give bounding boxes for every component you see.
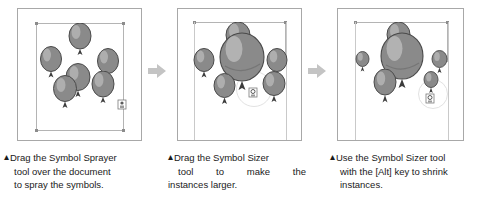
caption-step-1: ▴Drag the Symbol Sprayer tool over the d…	[4, 150, 159, 192]
selection-handle-top-left[interactable]	[35, 22, 38, 25]
figure-page: ▴Drag the Symbol Sprayer tool over the d…	[0, 0, 478, 205]
symbol-sizer-cursor-icon	[424, 91, 436, 105]
symbol-instance-balloon[interactable]	[89, 71, 117, 105]
symbol-instance-balloon[interactable]	[211, 73, 238, 106]
caption-line: tool to make the	[168, 165, 306, 179]
symbol-instance-balloon[interactable]	[66, 23, 94, 57]
selection-bounds-lower	[36, 119, 124, 131]
caption-step-2: ▴Drag the Symbol Sizer tool to make the …	[168, 150, 320, 192]
selection-handle-top-right[interactable]	[122, 22, 125, 25]
symbol-instance-balloon[interactable]	[371, 69, 399, 105]
caption-line: with the [Alt] key to shrink	[330, 165, 477, 179]
caption-line: tool over the document	[4, 165, 159, 179]
caption-line: to spray the symbols.	[4, 178, 159, 192]
caption-line: Drag the Symbol Sizer	[174, 152, 269, 163]
panel-symbol-sprayer-result	[17, 8, 142, 141]
selection-guide-right	[448, 22, 449, 140]
selection-handle-bottom-right[interactable]	[122, 129, 125, 132]
caption-line: Drag the Symbol Sprayer	[10, 152, 117, 163]
selection-guide-left	[355, 22, 356, 140]
triangle-up-icon: ▴	[4, 150, 9, 164]
step-arrow-icon	[147, 62, 167, 84]
tutorial-figure-row	[0, 0, 478, 148]
caption-step-3: ▴Use the Symbol Sizer tool with the [Alt…	[330, 150, 477, 192]
symbol-sprayer-cursor-icon	[116, 97, 128, 111]
triangle-up-icon: ▴	[168, 150, 173, 164]
panel-symbol-sizer-shrunk	[337, 8, 464, 141]
symbol-instance-balloon[interactable]	[260, 71, 288, 104]
caption-line: instances larger.	[168, 178, 320, 192]
selection-guide-left	[194, 22, 195, 140]
symbol-sizer-cursor-icon	[247, 85, 259, 99]
panel-symbol-sizer-enlarged	[177, 8, 302, 141]
step-arrow-icon	[307, 62, 327, 84]
triangle-up-icon: ▴	[330, 150, 335, 164]
selection-handle-bottom-left[interactable]	[35, 129, 38, 132]
symbol-instance-balloon-shrunk[interactable]	[354, 51, 371, 73]
caption-line: instances.	[330, 178, 477, 192]
symbol-instance-balloon[interactable]	[51, 75, 80, 110]
caption-line: Use the Symbol Sizer tool	[336, 152, 445, 163]
